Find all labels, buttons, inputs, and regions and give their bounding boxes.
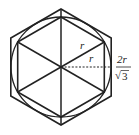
label-sqrt-3: 3 <box>122 70 128 82</box>
sqrt-symbol: √ <box>115 69 122 81</box>
hexagon-diagram: r r 2r √ 3 <box>0 0 139 135</box>
label-2r: 2r <box>117 53 128 65</box>
label-r-horizontal: r <box>89 52 94 64</box>
label-r-diagonal: r <box>80 39 85 51</box>
